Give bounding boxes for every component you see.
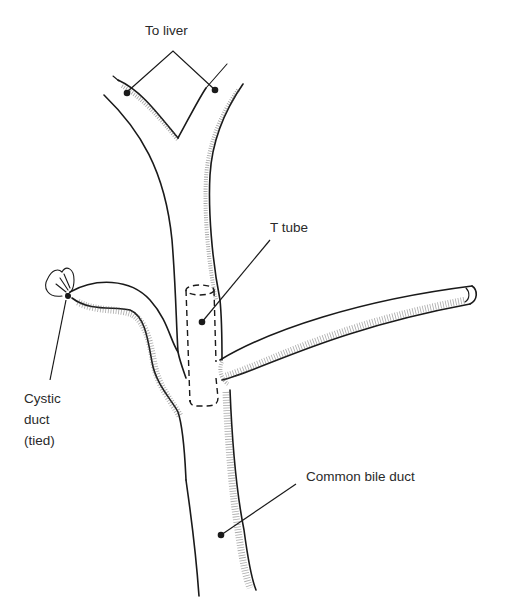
t-tube-internal-limb — [186, 285, 218, 406]
label-t-tube: T tube — [270, 219, 308, 236]
cystic-duct — [46, 268, 186, 480]
label-common-bile-duct: Common bile duct — [306, 468, 415, 485]
t-tube-external-limb — [220, 286, 476, 384]
bile-duct-diagram — [0, 0, 510, 607]
label-to-liver: To liver — [145, 22, 188, 39]
hepatic-ducts — [104, 64, 243, 360]
leader-lines — [50, 51, 296, 538]
label-cystic-duct-line2: duct — [24, 411, 50, 428]
label-cystic-duct-line3: (tied) — [24, 432, 55, 449]
common-bile-duct — [186, 390, 256, 596]
label-cystic-duct-line1: Cystic — [24, 390, 61, 407]
